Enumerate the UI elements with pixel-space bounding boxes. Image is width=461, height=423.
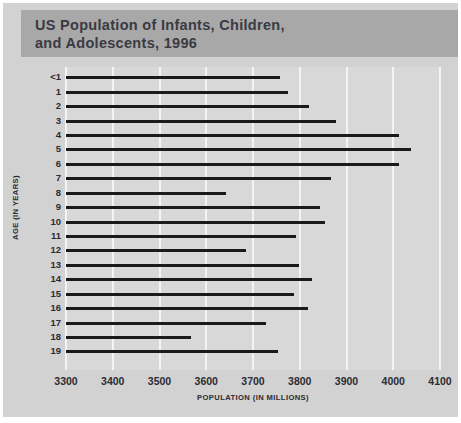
- gridline: [159, 67, 161, 370]
- y-tick-label: 15: [7, 289, 61, 299]
- bar: [66, 76, 280, 79]
- gridline: [252, 67, 254, 370]
- y-tick-label: 5: [7, 144, 61, 154]
- y-tick-label: 2: [7, 101, 61, 111]
- x-axis-title: POPULATION (IN MILLIONS): [66, 393, 440, 402]
- gridline: [205, 67, 207, 370]
- title-banner: US Population of Infants, Children, and …: [21, 10, 458, 57]
- y-tick-label: 14: [7, 274, 61, 284]
- plot-area: [66, 67, 440, 370]
- bar: [66, 249, 246, 252]
- y-tick-label: <1: [7, 72, 61, 82]
- bar: [66, 322, 266, 325]
- y-tick-label: 17: [7, 318, 61, 328]
- bar: [66, 163, 399, 166]
- y-tick-label: 1: [7, 87, 61, 97]
- y-tick-label: 13: [7, 260, 61, 270]
- bar: [66, 278, 312, 281]
- x-tick-label: 4100: [410, 375, 461, 387]
- bar: [66, 307, 308, 310]
- gridline: [439, 67, 441, 370]
- y-tick-label: 3: [7, 116, 61, 126]
- bar: [66, 91, 288, 94]
- chart-figure: US Population of Infants, Children, and …: [0, 0, 461, 423]
- bar: [66, 134, 399, 137]
- gridline: [346, 67, 348, 370]
- bar: [66, 148, 411, 151]
- bar: [66, 177, 331, 180]
- y-axis-title: AGE (IN YEARS): [11, 158, 20, 258]
- gridline: [65, 67, 67, 370]
- gridline: [299, 67, 301, 370]
- gridline: [392, 67, 394, 370]
- chart-title: US Population of Infants, Children, and …: [35, 16, 435, 52]
- bar: [66, 105, 309, 108]
- y-tick-label: 4: [7, 130, 61, 140]
- y-tick-label: 18: [7, 332, 61, 342]
- bar: [66, 120, 336, 123]
- bar: [66, 264, 299, 267]
- bar: [66, 293, 294, 296]
- bar: [66, 206, 320, 209]
- bar: [66, 235, 296, 238]
- bar: [66, 350, 278, 353]
- x-axis-tick-labels: 330034003500360037003800390040004100: [3, 375, 461, 389]
- y-tick-label: 16: [7, 303, 61, 313]
- gridline: [112, 67, 114, 370]
- bar: [66, 192, 226, 195]
- y-tick-label: 19: [7, 346, 61, 356]
- bar: [66, 221, 325, 224]
- bar: [66, 336, 191, 339]
- chart-panel: US Population of Infants, Children, and …: [3, 3, 458, 417]
